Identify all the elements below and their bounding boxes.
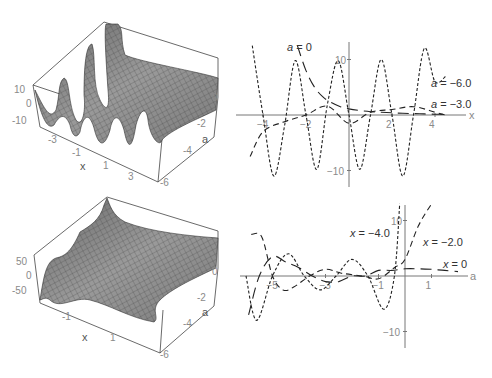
- z-tick-label: 50: [16, 256, 28, 267]
- x-tick-label: -1: [72, 147, 81, 158]
- a-tick-label: -4: [183, 145, 192, 156]
- x-axis-label: x: [80, 160, 86, 172]
- x-tick-label: −2: [300, 119, 312, 130]
- sections-plot-x: a −5−3−1110−10 x = −4.0x = −2.0x = 0: [240, 204, 477, 348]
- x-axis-label: a: [470, 270, 477, 282]
- z-tick-label: 10: [14, 84, 26, 95]
- series-annotation: a = −3.0: [431, 98, 471, 110]
- x-tick-label: 2: [386, 119, 392, 130]
- x-tick-label: −1: [373, 280, 385, 291]
- series-annotation: x = 0: [442, 258, 467, 270]
- series-line-1: [246, 204, 400, 321]
- sections-plot-a: x −4−22410−10 a = 0a = −6.0a = −3.0: [236, 41, 475, 187]
- series-annotation: a = −6.0: [431, 77, 471, 89]
- z-tick-label: -10: [12, 115, 27, 126]
- x-tick-label: -3: [48, 134, 57, 145]
- a-tick-label: 0: [212, 266, 218, 277]
- surface-plot-top: 10 0 -10 -3 -1 1 3 x 0 -2 -4 -6 a: [12, 22, 218, 188]
- a-tick-label: -2: [197, 118, 206, 129]
- series-annotation: a = 0: [287, 41, 312, 53]
- y-tick-label: −10: [383, 327, 400, 338]
- z-tick-label: 0: [26, 98, 32, 109]
- box-edge: [33, 85, 60, 94]
- a-axis-label: a: [202, 133, 209, 145]
- x-axis-label: x: [82, 331, 88, 343]
- x-tick-label: −5: [267, 280, 279, 291]
- x-axis-label: x: [469, 109, 475, 121]
- a-tick-label: 0: [212, 92, 218, 103]
- a-tick-label: -2: [197, 292, 206, 303]
- x-tick-label: 1: [426, 280, 432, 291]
- x-tick-label: 3: [128, 171, 134, 182]
- series-annotation: x = −4.0: [349, 227, 390, 239]
- figure-canvas: 10 0 -10 -3 -1 1 3 x 0 -2 -4 -6 a 50 0 -…: [0, 0, 492, 378]
- surface-mesh-grid: [40, 198, 218, 322]
- surface-plot-bottom: 50 0 -50 -1 1 x 0 -2 -4 -6 a: [12, 197, 218, 360]
- y-tick-label: 10: [391, 216, 403, 227]
- series-line-1: [297, 46, 445, 115]
- a-axis-label: a: [202, 306, 209, 318]
- y-tick-label: 10: [335, 55, 347, 66]
- a-tick-label: -6: [160, 177, 169, 188]
- x-tick-label: 4: [429, 119, 435, 130]
- z-tick-label: 0: [26, 270, 32, 281]
- surface-mesh-grid: [35, 24, 218, 144]
- series-line-2: [251, 204, 431, 291]
- y-tick-label: −10: [327, 166, 344, 177]
- x-tick-label: 1: [110, 332, 116, 343]
- a-tick-label: -6: [160, 349, 169, 360]
- a-tick-label: -4: [183, 318, 192, 329]
- x-tick-label: 1: [103, 160, 109, 171]
- x-tick-label: -1: [62, 311, 71, 322]
- z-tick-label: -50: [12, 285, 27, 296]
- series-annotation: x = −2.0: [422, 236, 463, 248]
